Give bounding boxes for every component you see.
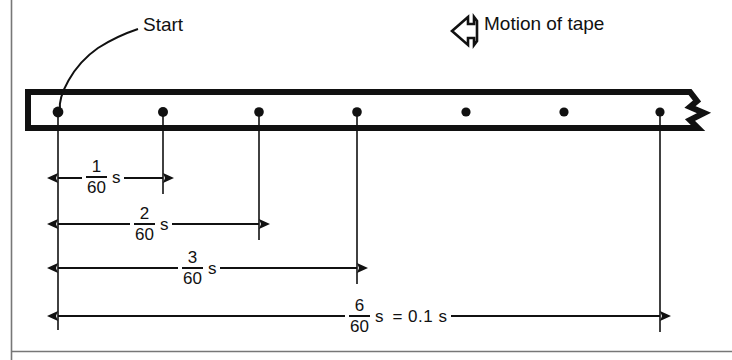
- unit-label: s: [208, 257, 217, 279]
- unit-label: s: [112, 166, 121, 188]
- start-label: Start: [143, 15, 183, 34]
- fraction-d1: 1 60: [86, 158, 107, 196]
- tape-dot-3: [352, 107, 362, 117]
- tape-dot-0: [53, 107, 64, 118]
- tape-dot-4: [461, 107, 470, 116]
- motion-of-tape-label: Motion of tape: [484, 14, 604, 33]
- dimension-label-d1: 1 60 s: [82, 158, 124, 196]
- unit-label: s: [375, 305, 384, 327]
- tape-outline: [28, 92, 704, 128]
- tape-dot-5: [559, 107, 568, 116]
- dimension-label-d3: 3 60 s: [178, 249, 220, 287]
- fraction-denominator: 60: [134, 225, 155, 243]
- ticker-tape-figure: Start Motion of tape 1 60 s 2 60 s 3 60 …: [0, 0, 732, 360]
- tape-dot-1: [158, 107, 168, 117]
- dimension-label-d2: 2 60 s: [130, 205, 172, 243]
- fraction-d6: 6 60: [349, 297, 370, 335]
- fraction-denominator: 60: [86, 178, 107, 196]
- fraction-numerator: 1: [89, 158, 104, 176]
- fraction-d3: 3 60: [182, 249, 203, 287]
- dimension-label-d6: 6 60 s = 0.1 s: [345, 297, 451, 335]
- fraction-denominator: 60: [182, 269, 203, 287]
- unit-label: s: [160, 213, 169, 235]
- fraction-numerator: 2: [137, 205, 152, 223]
- tape-dot-6: [655, 107, 664, 116]
- tape-dot-2: [254, 107, 264, 117]
- fraction-numerator: 3: [185, 249, 200, 267]
- fraction-numerator: 6: [352, 297, 367, 315]
- left-arrow-outline-icon: [452, 17, 477, 45]
- equals-value-label: = 0.1 s: [392, 305, 447, 327]
- fraction-denominator: 60: [349, 317, 370, 335]
- fraction-d2: 2 60: [134, 205, 155, 243]
